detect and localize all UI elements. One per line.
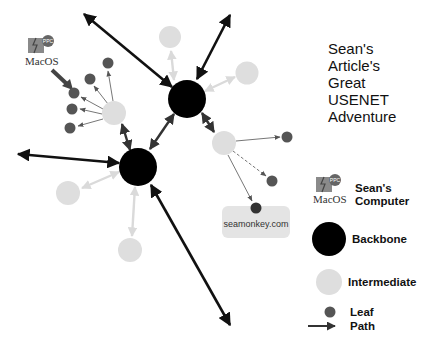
intermediate-node [118, 238, 142, 262]
legend-leaf-symbol [325, 307, 336, 318]
legend-label-intermediate: Intermediate [348, 276, 416, 289]
leaf-node [282, 132, 293, 143]
path-arrow [82, 172, 119, 188]
legend-label-backbone: Backbone [352, 233, 407, 246]
svg-text:MacOS: MacOS [25, 55, 59, 67]
legend-label-seans-computer: Sean's Computer [355, 182, 409, 208]
intermediate-node [56, 181, 80, 205]
leaf-node [69, 88, 80, 99]
leaf-node [65, 123, 76, 134]
path-arrow [171, 51, 174, 80]
path-arrow [150, 114, 174, 149]
diagram-title: Sean's Article's Great USENET Adventure [328, 40, 396, 125]
path-arrow [132, 187, 135, 236]
leaf-node [103, 58, 114, 69]
leaf-node [251, 203, 262, 214]
backbone-node [119, 148, 157, 186]
leaf-node [67, 104, 78, 115]
title-line: Sean's [328, 40, 396, 57]
legend-label-leaf: Leaf [350, 306, 374, 319]
path-arrow [202, 113, 214, 132]
legend-macos-icon: PPC MacOS [313, 174, 347, 205]
legend-label-path: Path [350, 320, 375, 333]
path-arrow [18, 154, 119, 163]
intermediate-node [236, 62, 259, 85]
backbone-node [168, 80, 206, 118]
leaf-node [267, 176, 278, 187]
path-arrow [122, 124, 130, 150]
intermediate-node [159, 26, 181, 48]
macos-connection-arrow [52, 70, 73, 90]
path-arrow [197, 15, 230, 79]
title-line: USENET [328, 91, 396, 108]
leaf-node [85, 74, 96, 85]
title-line: Adventure [328, 108, 396, 125]
title-line: Article's [328, 57, 396, 74]
leaf-nodes [65, 58, 293, 214]
title-line: Great [328, 74, 396, 91]
intermediate-node [212, 131, 236, 155]
backbone-nodes [119, 80, 206, 186]
svg-text:PPC: PPC [43, 38, 54, 44]
intermediate-node [102, 101, 126, 125]
server-label: seamonkey.com [224, 219, 289, 229]
svg-text:MacOS: MacOS [313, 193, 347, 205]
legend-intermediate-symbol [316, 269, 342, 295]
legend-backbone-symbol [312, 222, 346, 256]
path-arrow [84, 14, 172, 87]
macos-icon: PPC MacOS [25, 35, 59, 67]
legend-symbols: PPC MacOS [308, 174, 347, 326]
svg-text:PPC: PPC [330, 177, 341, 183]
path-arrow [205, 77, 235, 91]
path-arrow [151, 185, 230, 325]
